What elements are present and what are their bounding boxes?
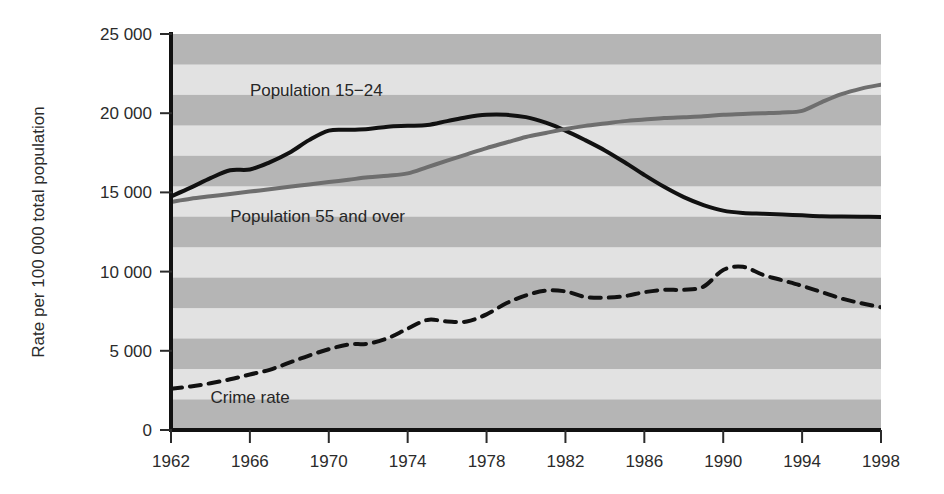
series-label-population-15-24: Population 15−24	[250, 81, 383, 100]
y-axis-tick-label: 15 000	[100, 183, 152, 202]
x-axis-tick-label: 1978	[468, 452, 506, 471]
background-band	[171, 339, 881, 370]
x-axis-tick-label: 1966	[231, 452, 269, 471]
y-axis-tick-label: 5 000	[109, 342, 152, 361]
background-band	[171, 125, 881, 156]
x-axis-tick-label: 1970	[310, 452, 348, 471]
background-band	[171, 34, 881, 65]
y-axis-ticks: 05 00010 00015 00020 00025 000	[100, 25, 172, 440]
y-axis-tick-label: 10 000	[100, 263, 152, 282]
chart-figure: 05 00010 00015 00020 00025 000 196219661…	[0, 0, 944, 494]
y-axis-tick-label: 0	[143, 421, 152, 440]
background-band	[171, 308, 881, 339]
x-axis-tick-label: 1974	[389, 452, 427, 471]
x-axis-tick-label: 1986	[625, 452, 663, 471]
series-label-population-55-and-over: Population 55 and over	[230, 207, 405, 226]
y-axis-title: Rate per 100 000 total population	[29, 106, 48, 357]
x-axis-tick-label: 1982	[547, 452, 585, 471]
x-axis-ticks: 1962196619701974197819821986199019941998	[152, 430, 900, 471]
y-axis-tick-label: 20 000	[100, 104, 152, 123]
x-axis-tick-label: 1994	[783, 452, 821, 471]
background-band	[171, 247, 881, 278]
x-axis-tick-label: 1998	[862, 452, 900, 471]
x-axis-tick-label: 1990	[704, 452, 742, 471]
series-label-crime-rate: Crime rate	[210, 388, 289, 407]
x-axis-tick-label: 1962	[152, 452, 190, 471]
y-axis-tick-label: 25 000	[100, 25, 152, 44]
line-chart-canvas: 05 00010 00015 00020 00025 000 196219661…	[0, 0, 944, 494]
background-band	[171, 278, 881, 309]
